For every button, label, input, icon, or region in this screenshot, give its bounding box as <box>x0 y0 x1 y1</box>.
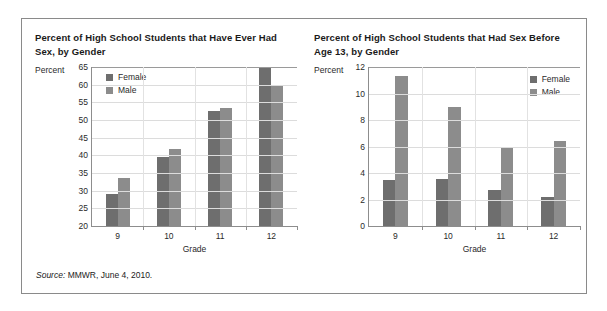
y-tick-label: 35 <box>66 168 88 178</box>
bar-male-grade-10 <box>448 107 460 226</box>
legend-swatch-female-icon <box>530 76 537 83</box>
group-divider <box>143 67 144 226</box>
group-divider <box>246 67 247 226</box>
x-tick-label: 11 <box>496 231 505 241</box>
chart-panels: Percent of High School Students that Hav… <box>22 19 586 255</box>
chart-title-ever-had-sex: Percent of High School Students that Hav… <box>35 31 287 58</box>
x-tick-mark <box>195 226 196 230</box>
y-tick-label: 6 <box>343 142 365 152</box>
legend-item-male: Male <box>530 88 570 97</box>
legend-swatch-male-icon <box>106 87 113 94</box>
legend-item-female: Female <box>106 73 146 82</box>
y-tick-label: 10 <box>343 89 365 99</box>
x-tick-mark <box>143 226 144 230</box>
group-divider <box>527 67 528 226</box>
y-axis-label-right: Percent <box>314 65 343 75</box>
bar-female-grade-10 <box>436 179 448 226</box>
x-tick-label: 10 <box>164 231 173 241</box>
bar-female-grade-9 <box>106 194 118 227</box>
y-tick-label: 40 <box>66 150 88 160</box>
legend-item-male: Male <box>106 86 146 95</box>
x-tick-label: 12 <box>267 231 276 241</box>
chart-panel-ever-had-sex: Percent of High School Students that Hav… <box>22 19 304 255</box>
group-divider <box>195 67 196 226</box>
x-tick-label: 12 <box>549 231 558 241</box>
y-tick-label: 65 <box>66 62 88 72</box>
x-tick-label: 9 <box>393 231 398 241</box>
plot-area-right: Female Male Grade 0246810129101112 <box>368 67 580 227</box>
y-tick-label: 25 <box>66 203 88 213</box>
group-divider <box>475 67 476 226</box>
legend-label-female: Female <box>118 73 146 82</box>
chart-panel-sex-before-13: Percent of High School Students that Had… <box>304 19 586 255</box>
x-axis-title-left: Grade <box>92 244 297 254</box>
y-axis-label-left: Percent <box>35 65 64 75</box>
plot-wrapper-right: Percent Female Male Grade 024 <box>314 67 576 245</box>
y-tick-label: 55 <box>66 97 88 107</box>
bar-male-grade-9 <box>395 76 407 226</box>
x-tick-label: 9 <box>115 231 120 241</box>
source-label: Source: <box>36 270 65 280</box>
x-tick-mark <box>246 226 247 230</box>
group-divider <box>422 67 423 226</box>
legend-item-female: Female <box>530 75 570 84</box>
legend-swatch-male-icon <box>530 89 537 96</box>
y-tick-label: 0 <box>343 221 365 231</box>
legend-label-male: Male <box>542 88 560 97</box>
y-tick-label: 4 <box>343 168 365 178</box>
y-tick-label: 8 <box>343 115 365 125</box>
x-tick-mark <box>475 226 476 230</box>
legend-swatch-female-icon <box>106 74 113 81</box>
x-tick-mark <box>422 226 423 230</box>
plot-wrapper-left: Percent Female Male Grade 202 <box>35 67 298 245</box>
bar-male-grade-11 <box>501 148 513 226</box>
legend-label-male: Male <box>118 86 136 95</box>
x-tick-mark <box>297 226 298 230</box>
x-axis-title-right: Grade <box>369 244 580 254</box>
chart-title-sex-before-13: Percent of High School Students that Had… <box>314 31 566 58</box>
figure-card: Percent of High School Students that Hav… <box>21 18 587 294</box>
source-text: MMWR, June 4, 2010. <box>65 270 152 280</box>
bar-male-grade-12 <box>554 141 566 226</box>
bar-female-grade-9 <box>383 180 395 226</box>
y-tick-label: 60 <box>66 80 88 90</box>
y-tick-label: 45 <box>66 133 88 143</box>
y-tick-label: 30 <box>66 186 88 196</box>
y-tick-label: 12 <box>343 62 365 72</box>
plot-area-left: Female Male Grade 2025303540455055606591… <box>91 67 297 227</box>
bar-male-grade-10 <box>169 149 181 226</box>
bar-female-grade-12 <box>541 197 553 226</box>
bar-male-grade-9 <box>118 178 130 226</box>
bar-female-grade-11 <box>488 190 500 226</box>
x-tick-mark <box>527 226 528 230</box>
y-tick-label: 20 <box>66 221 88 231</box>
x-tick-mark <box>580 226 581 230</box>
x-tick-label: 10 <box>443 231 452 241</box>
y-tick-label: 50 <box>66 115 88 125</box>
legend-label-female: Female <box>542 75 570 84</box>
bar-female-grade-12 <box>259 67 271 226</box>
x-tick-label: 11 <box>216 231 225 241</box>
source-note: Source: MMWR, June 4, 2010. <box>36 270 152 280</box>
y-tick-label: 2 <box>343 195 365 205</box>
